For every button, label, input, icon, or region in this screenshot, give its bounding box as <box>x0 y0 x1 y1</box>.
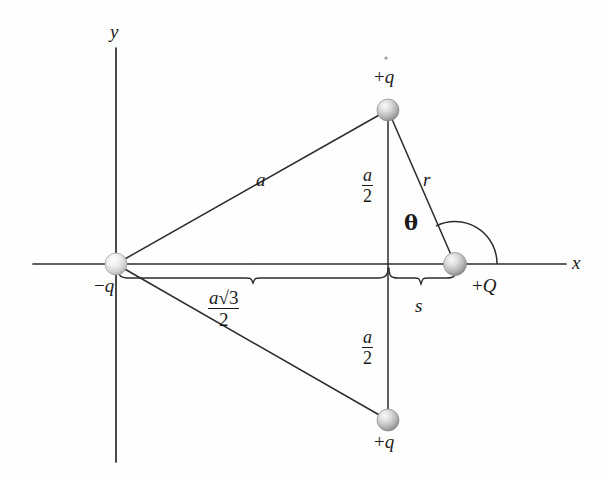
charge-bottom-symbol: q <box>385 431 395 452</box>
segment-label-a: a <box>256 170 266 189</box>
charge-left-sign: − <box>94 275 105 296</box>
charge-top-sign: + <box>374 66 385 87</box>
charge-left-symbol: q <box>105 275 115 296</box>
charge-sphere-left <box>105 253 127 275</box>
a-sqrt3-denominator: 2 <box>208 308 239 330</box>
half-a-upper-denominator: 2 <box>362 185 373 206</box>
diagram-canvas <box>0 0 606 479</box>
charge-sphere-top <box>377 99 399 121</box>
x-axis-label: x <box>572 253 580 272</box>
half-a-label-lower: a 2 <box>362 328 373 368</box>
charge-top-symbol: q <box>385 66 395 87</box>
scan-speck <box>384 56 387 59</box>
half-a-upper-numerator: a <box>362 166 373 185</box>
charge-sphere-right <box>444 253 467 276</box>
y-axis-label: y <box>110 22 118 41</box>
charge-bottom-sign: + <box>374 431 385 452</box>
charge-label-top: +q <box>374 67 394 86</box>
a-sqrt3-numerator: a√3 <box>208 288 239 308</box>
brace-a-sqrt3 <box>118 268 388 283</box>
distance-label-s: s <box>415 296 422 315</box>
charge-label-bottom: +q <box>374 432 394 451</box>
a-sqrt3-over-2-label: a√3 2 <box>208 288 239 330</box>
angle-label-theta: θ <box>404 212 418 233</box>
charge-label-left: −q <box>94 276 114 295</box>
physics-diagram-figure: y x +q −q +q +Q a r θ s a 2 a 2 a√3 2 <box>0 0 606 479</box>
a-sqrt3-radical: √3 <box>219 287 239 308</box>
half-a-lower-numerator: a <box>362 328 373 347</box>
charge-spheres <box>105 99 467 431</box>
charge-label-right: +Q <box>472 276 496 295</box>
half-a-lower-denominator: 2 <box>362 347 373 368</box>
charge-right-sign: + <box>472 275 483 296</box>
a-sqrt3-a-symbol: a <box>209 287 219 308</box>
triangle-edges <box>116 110 455 420</box>
segment-label-r: r <box>423 170 430 189</box>
charge-sphere-bottom <box>377 409 399 431</box>
half-a-label-upper: a 2 <box>362 166 373 206</box>
segment-r <box>388 110 455 264</box>
segment-a-upper <box>116 110 388 264</box>
segment-a-lower <box>116 264 388 420</box>
charge-right-symbol: Q <box>483 275 497 296</box>
